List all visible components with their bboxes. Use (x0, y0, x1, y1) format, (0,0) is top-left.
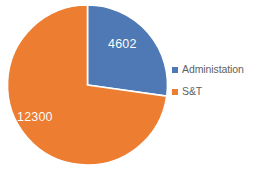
pie-plot-area: 4602 12300 (0, 0, 178, 169)
legend-item-st[interactable]: S&T (172, 85, 253, 98)
pie-data-label-st: 12300 (17, 111, 53, 124)
pie-svg (0, 0, 178, 169)
legend-label-st: S&T (182, 86, 202, 97)
legend-swatch-administation (172, 67, 178, 73)
legend-label-administation: Administation (182, 64, 244, 75)
pie-data-label-administation: 4602 (108, 38, 137, 51)
pie-chart: 4602 12300 Administation S&T (0, 0, 253, 169)
chart-legend: Administation S&T (172, 63, 253, 98)
legend-item-administation[interactable]: Administation (172, 63, 253, 76)
legend-swatch-st (172, 89, 178, 95)
pie-slices (8, 5, 168, 165)
